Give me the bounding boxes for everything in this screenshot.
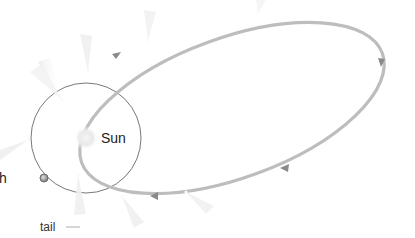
comet-tail-icon	[0, 140, 28, 160]
comet-tail-icon	[74, 175, 86, 215]
comet-orbit-diagram: Sun h tail	[0, 0, 415, 238]
comet-tail-icon	[256, 0, 266, 13]
comet-orbit	[58, 0, 407, 229]
comet-nuclei	[26, 12, 259, 198]
earth-label: h	[0, 171, 7, 185]
tail-label: tail	[40, 221, 55, 233]
diagram-canvas	[0, 0, 415, 238]
comet-tail-icon	[122, 196, 144, 228]
earth-icon	[40, 174, 48, 182]
sun-label: Sun	[101, 131, 126, 145]
arrow-icon	[112, 52, 121, 59]
comet-tail-icon	[144, 10, 156, 40]
comet-tail-icon	[186, 192, 214, 214]
comet-tail-icon	[80, 34, 92, 72]
sun-icon	[74, 126, 98, 150]
